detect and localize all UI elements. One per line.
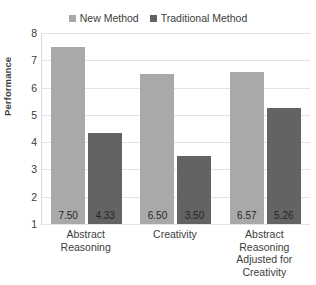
plot-area: 87654321 7.504.336.503.506.575.26 <box>41 33 310 225</box>
y-axis-title: Performance <box>2 36 16 116</box>
y-axis-tick-label: 4 <box>31 137 37 148</box>
legend-swatch-new-method <box>69 15 76 22</box>
legend-label-new-method: New Method <box>80 13 139 24</box>
bar-new-method[interactable]: 6.50 <box>140 74 174 224</box>
bar-group: 6.575.26 <box>221 33 310 224</box>
bar-value-label: 6.50 <box>148 211 167 224</box>
bar-new-method[interactable]: 6.57 <box>230 72 264 224</box>
category-label: Abstract Reasoning <box>41 228 130 278</box>
gridline <box>42 224 310 225</box>
bar-group: 6.503.50 <box>131 33 220 224</box>
bar-traditional-method[interactable]: 3.50 <box>177 156 211 224</box>
legend-swatch-traditional-method <box>150 15 157 22</box>
y-axis-tick-label: 8 <box>31 28 37 39</box>
category-label: Abstract Reasoning Adjusted for Creativi… <box>220 228 309 278</box>
legend-entry-traditional-method: Traditional Method <box>150 13 248 24</box>
bar-value-label: 6.57 <box>237 211 256 224</box>
bar-value-label: 4.33 <box>95 211 114 224</box>
y-axis-tick-label: 7 <box>31 55 37 66</box>
bar-chart: New Method Traditional Method Performanc… <box>0 0 316 285</box>
y-axis-tick-label: 1 <box>31 219 37 230</box>
legend-entry-new-method: New Method <box>69 13 139 24</box>
bar-group: 7.504.33 <box>42 33 131 224</box>
bar-traditional-method[interactable]: 4.33 <box>88 133 122 224</box>
x-axis-category-labels: Abstract ReasoningCreativityAbstract Rea… <box>41 228 309 278</box>
bar-value-label: 3.50 <box>185 211 204 224</box>
legend-label-traditional-method: Traditional Method <box>161 13 248 24</box>
bar-traditional-method[interactable]: 5.26 <box>267 108 301 224</box>
y-axis-tick-label: 3 <box>31 164 37 175</box>
category-label: Creativity <box>130 228 219 278</box>
bar-value-label: 5.26 <box>274 211 293 224</box>
bar-new-method[interactable]: 7.50 <box>51 47 85 224</box>
bar-groups: 7.504.336.503.506.575.26 <box>42 33 310 224</box>
y-axis-tick-label: 5 <box>31 110 37 121</box>
bar-value-label: 7.50 <box>58 211 77 224</box>
chart-legend: New Method Traditional Method <box>0 13 316 24</box>
y-axis-tick-label: 6 <box>31 82 37 93</box>
y-axis-tick-label: 2 <box>31 191 37 202</box>
